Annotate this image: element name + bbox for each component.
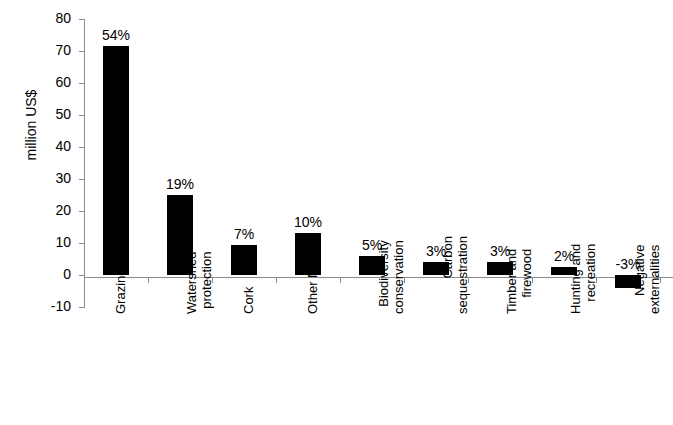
bar <box>231 245 257 275</box>
x-axis-category-label: Carbonsequestration <box>440 236 470 314</box>
x-axis-category-label: Timber andfirewood <box>504 249 534 314</box>
x-axis-category-label: Cork <box>241 287 256 314</box>
category-label-line: conservation <box>391 240 406 314</box>
y-axis-tick: 60 <box>79 83 85 84</box>
y-axis-tick-label: 20 <box>31 202 71 218</box>
bar-value-label: 19% <box>150 177 210 192</box>
y-axis-tick-label: 10 <box>31 234 71 250</box>
y-axis-tick: 10 <box>79 243 85 244</box>
x-axis-tick <box>84 277 85 283</box>
category-label-line: recreation <box>583 244 598 314</box>
y-axis-tick-label: 80 <box>31 10 71 26</box>
x-axis-category-label: Grazing <box>113 268 128 314</box>
x-axis-category-label: Biodiversityconservation <box>376 240 406 314</box>
y-axis-tick-label: -10 <box>31 298 71 314</box>
y-axis-line <box>84 19 85 307</box>
y-axis-tick: 30 <box>79 179 85 180</box>
x-axis-category-label: Watershedprotection <box>184 252 214 314</box>
y-axis-tick: -10 <box>79 307 85 308</box>
x-axis-tick <box>276 277 277 283</box>
category-label-line: externalities <box>647 245 662 314</box>
y-axis-tick-label: 0 <box>31 266 71 282</box>
x-axis-category-label: Other NWFPs <box>305 233 320 314</box>
x-axis-category-label: Negativeexternalities <box>632 245 662 314</box>
y-axis-tick: 0 <box>79 275 85 276</box>
category-label-line: protection <box>199 252 214 314</box>
category-label-line: Other NWFPs <box>305 233 320 314</box>
y-axis-tick-label: 30 <box>31 170 71 186</box>
category-label-line: Carbon <box>440 236 455 314</box>
y-axis-tick-label: 40 <box>31 138 71 154</box>
category-label-line: Hunting and <box>568 244 583 314</box>
y-axis-tick: 80 <box>79 19 85 20</box>
y-axis-tick: 40 <box>79 147 85 148</box>
y-axis-tick-label: 60 <box>31 74 71 90</box>
y-axis-tick-label: 50 <box>31 106 71 122</box>
y-axis-tick: 50 <box>79 115 85 116</box>
x-axis-category-label: Hunting andrecreation <box>568 244 598 314</box>
bar-value-label: 10% <box>278 215 338 230</box>
bar-value-label: 7% <box>214 227 274 242</box>
category-label-line: sequestration <box>455 236 470 314</box>
x-axis-tick <box>148 277 149 283</box>
y-axis-tick: 70 <box>79 51 85 52</box>
x-axis-tick <box>340 277 341 283</box>
category-label-line: Timber and <box>504 249 519 314</box>
y-axis-tick-label: 70 <box>31 42 71 58</box>
category-label-line: Watershed <box>184 252 199 314</box>
bar <box>103 46 129 275</box>
category-label-line: Negative <box>632 245 647 314</box>
category-label-line: firewood <box>519 249 534 314</box>
category-label-line: Biodiversity <box>376 240 391 314</box>
y-axis-tick: 20 <box>79 211 85 212</box>
bar-chart: million US$ 80706050403020100-10 54%19%7… <box>0 0 673 425</box>
category-label-line: Grazing <box>113 268 128 314</box>
category-label-line: Cork <box>241 287 256 314</box>
bar-value-label: 54% <box>86 28 146 43</box>
